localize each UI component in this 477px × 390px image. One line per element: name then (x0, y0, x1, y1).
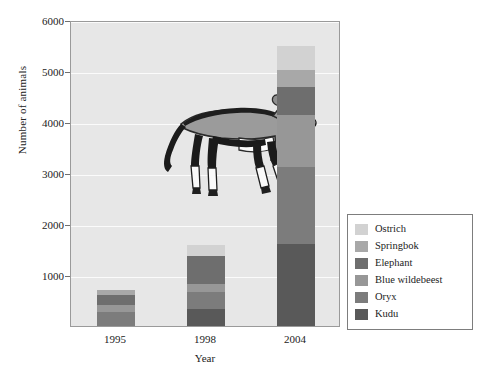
legend-swatch-icon (355, 292, 368, 303)
x-tick-label-1995: 1995 (80, 333, 150, 345)
legend-item-label: Springbok (375, 241, 419, 252)
plot-area (70, 21, 340, 327)
x-axis-title: Year (70, 352, 340, 364)
legend: OstrichSpringbokElephantBlue wildebeestO… (347, 214, 473, 330)
bar-segment-1995-blue-wildebeest (97, 305, 135, 312)
legend-swatch-icon (355, 309, 368, 320)
legend-item-label: Blue wildebeest (375, 275, 442, 286)
y-tick-label-1000: 1000 (0, 271, 64, 282)
bar-1998 (187, 245, 225, 326)
legend-swatch-icon (355, 258, 368, 269)
y-tick-label-5000: 5000 (0, 67, 64, 78)
bar-segment-2004-blue-wildebeest (277, 115, 315, 167)
legend-item-oryx[interactable]: Oryx (355, 289, 467, 306)
x-tick-label-2004: 2004 (260, 333, 330, 345)
bar-2004 (277, 46, 315, 326)
y-tick-label-3000: 3000 (0, 169, 64, 180)
y-tick-label-2000: 2000 (0, 220, 64, 231)
bar-segment-2004-oryx (277, 167, 315, 244)
bar-segment-1998-elephant (187, 256, 225, 284)
legend-swatch-icon (355, 275, 368, 286)
bar-segment-1995-oryx (97, 312, 135, 326)
bar-segment-2004-kudu (277, 244, 315, 326)
legend-swatch-icon (355, 241, 368, 252)
legend-item-springbok[interactable]: Springbok (355, 238, 467, 255)
bar-segment-1995-elephant (97, 295, 135, 305)
bar-segment-1998-kudu (187, 309, 225, 326)
legend-item-kudu[interactable]: Kudu (355, 306, 467, 323)
legend-item-label: Elephant (375, 258, 412, 269)
bar-segment-1995-springbok (97, 290, 135, 295)
legend-item-label: Kudu (375, 309, 398, 320)
bar-segment-1998-blue-wildebeest (187, 284, 225, 292)
bar-segment-1998-ostrich (187, 245, 225, 256)
legend-item-label: Oryx (375, 292, 397, 303)
figure-caption (14, 381, 466, 390)
legend-item-elephant[interactable]: Elephant (355, 255, 467, 272)
legend-item-label: Ostrich (375, 224, 406, 235)
y-tick-label-6000: 6000 (0, 16, 64, 27)
bar-segment-2004-springbok (277, 70, 315, 87)
x-tick-label-1998: 1998 (170, 333, 240, 345)
bar-segment-2004-elephant (277, 87, 315, 115)
y-axis-title: Number of animals (16, 30, 28, 190)
legend-swatch-icon (355, 224, 368, 235)
legend-item-blue-wildebeest[interactable]: Blue wildebeest (355, 272, 467, 289)
gridline-6000 (71, 22, 339, 23)
bar-1995 (97, 290, 135, 326)
bar-segment-2004-ostrich (277, 46, 315, 70)
bar-segment-1998-oryx (187, 292, 225, 309)
legend-item-ostrich[interactable]: Ostrich (355, 221, 467, 238)
y-tick-label-4000: 4000 (0, 118, 64, 129)
figure-container: Number of animals 1000200030004000500060… (0, 0, 477, 390)
